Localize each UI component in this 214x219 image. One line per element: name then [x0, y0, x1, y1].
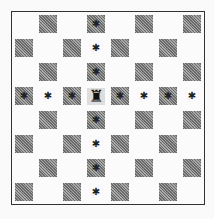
star-marker-icon: ✱	[20, 91, 28, 101]
star-marker-icon: ✱	[92, 67, 100, 77]
board-square	[180, 156, 204, 180]
board-square	[156, 180, 180, 204]
board-square	[132, 180, 156, 204]
board-square	[60, 180, 84, 204]
board-square	[132, 60, 156, 84]
board-square	[132, 108, 156, 132]
board-square	[156, 36, 180, 60]
board-square	[108, 60, 132, 84]
board-square: ✱	[36, 84, 60, 108]
board-square	[60, 36, 84, 60]
board-square	[156, 108, 180, 132]
board-square	[12, 132, 36, 156]
board-square	[156, 156, 180, 180]
board-square	[156, 12, 180, 36]
board-square	[132, 36, 156, 60]
board-square	[108, 12, 132, 36]
board-square	[132, 12, 156, 36]
board-square: ✱	[84, 132, 108, 156]
board-square	[108, 36, 132, 60]
board-square	[36, 108, 60, 132]
board-square: ✱	[156, 84, 180, 108]
rook-icon: ♜	[87, 88, 104, 105]
board-square: ✱	[84, 36, 108, 60]
star-marker-icon: ✱	[44, 91, 52, 101]
board-square	[36, 180, 60, 204]
board-square: ✱	[84, 12, 108, 36]
board-square	[156, 60, 180, 84]
board-square: ✱	[84, 108, 108, 132]
star-marker-icon: ✱	[188, 91, 196, 101]
board-square: ✱	[108, 84, 132, 108]
board-square	[12, 180, 36, 204]
board-square: ✱	[84, 180, 108, 204]
board-square	[108, 180, 132, 204]
star-marker-icon: ✱	[92, 43, 100, 53]
board-square: ✱	[180, 84, 204, 108]
board-square: ✱	[84, 60, 108, 84]
board-square	[180, 108, 204, 132]
board-square	[12, 108, 36, 132]
star-marker-icon: ✱	[92, 187, 100, 197]
board-square	[36, 60, 60, 84]
star-marker-icon: ✱	[92, 115, 100, 125]
board-square	[180, 12, 204, 36]
board-square	[108, 132, 132, 156]
board-square	[132, 156, 156, 180]
board-square	[60, 156, 84, 180]
star-marker-icon: ✱	[116, 91, 124, 101]
board-square	[36, 156, 60, 180]
board-square	[132, 132, 156, 156]
star-marker-icon: ✱	[92, 163, 100, 173]
board-square	[36, 132, 60, 156]
chess-board: ✱✱✱✱✱✱♜✱✱✱✱✱✱✱✱	[11, 11, 205, 205]
board-square	[12, 12, 36, 36]
board-square	[36, 12, 60, 36]
board-square	[180, 36, 204, 60]
board-square	[60, 108, 84, 132]
star-marker-icon: ✱	[92, 139, 100, 149]
board-square	[12, 36, 36, 60]
star-marker-icon: ✱	[164, 91, 172, 101]
board-square	[180, 60, 204, 84]
board-square	[180, 180, 204, 204]
board-square	[36, 36, 60, 60]
board-square: ♜	[84, 84, 108, 108]
board-square: ✱	[132, 84, 156, 108]
star-marker-icon: ✱	[92, 19, 100, 29]
board-square	[12, 60, 36, 84]
board-square: ✱	[12, 84, 36, 108]
board-square: ✱	[84, 156, 108, 180]
board-square	[60, 12, 84, 36]
star-marker-icon: ✱	[140, 91, 148, 101]
board-square	[108, 108, 132, 132]
star-marker-icon: ✱	[68, 91, 76, 101]
board-square	[108, 156, 132, 180]
board-square	[12, 156, 36, 180]
board-square	[156, 132, 180, 156]
board-square	[60, 60, 84, 84]
board-square	[180, 132, 204, 156]
board-square	[60, 132, 84, 156]
board-square: ✱	[60, 84, 84, 108]
